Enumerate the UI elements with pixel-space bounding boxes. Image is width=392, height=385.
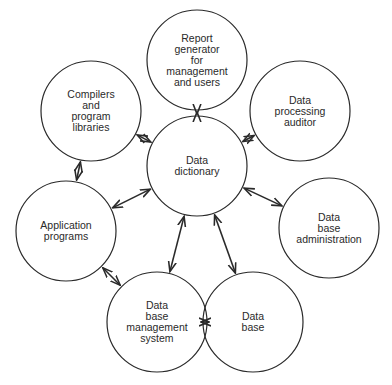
node-label-line: system [126, 333, 187, 344]
node-label-line: libraries [67, 122, 114, 133]
node-label-report-generator: Reportgeneratorformanagementand users [166, 33, 227, 88]
arrow-data-dictionary-to-data-base-administration [244, 188, 282, 206]
arrow-data-dictionary-to-compilers [137, 135, 151, 142]
arrow-data-dictionary-to-dbms [170, 216, 184, 271]
node-label-line: and users [166, 77, 227, 88]
arrow-data-dictionary-to-application-programs [113, 189, 151, 208]
node-label-line: auditor [275, 117, 326, 128]
arrow-compilers-to-application-programs [77, 162, 81, 180]
node-label-line: dictionary [175, 166, 220, 177]
connector-arrows [77, 112, 282, 322]
node-label-line: administration [296, 234, 361, 245]
node-label-dbms: Databasemanagementsystem [126, 300, 187, 344]
arrow-data-dictionary-to-data-base [215, 215, 236, 273]
node-label-data-base: Database [242, 311, 265, 333]
node-label-data-dictionary: Datadictionary [175, 155, 220, 177]
node-label-line: programs [40, 231, 91, 242]
node-label-compilers: Compilersandprogramlibraries [67, 89, 114, 133]
arrow-application-programs-to-dbms [103, 268, 120, 285]
node-label-application-programs: Applicationprograms [40, 220, 91, 242]
node-label-data-base-administration: Databaseadministration [296, 212, 361, 245]
node-label-line: base [242, 322, 265, 333]
arrow-data-dictionary-to-data-processing-auditor [243, 136, 254, 142]
node-label-data-processing-auditor: Dataprocessingauditor [275, 95, 326, 128]
